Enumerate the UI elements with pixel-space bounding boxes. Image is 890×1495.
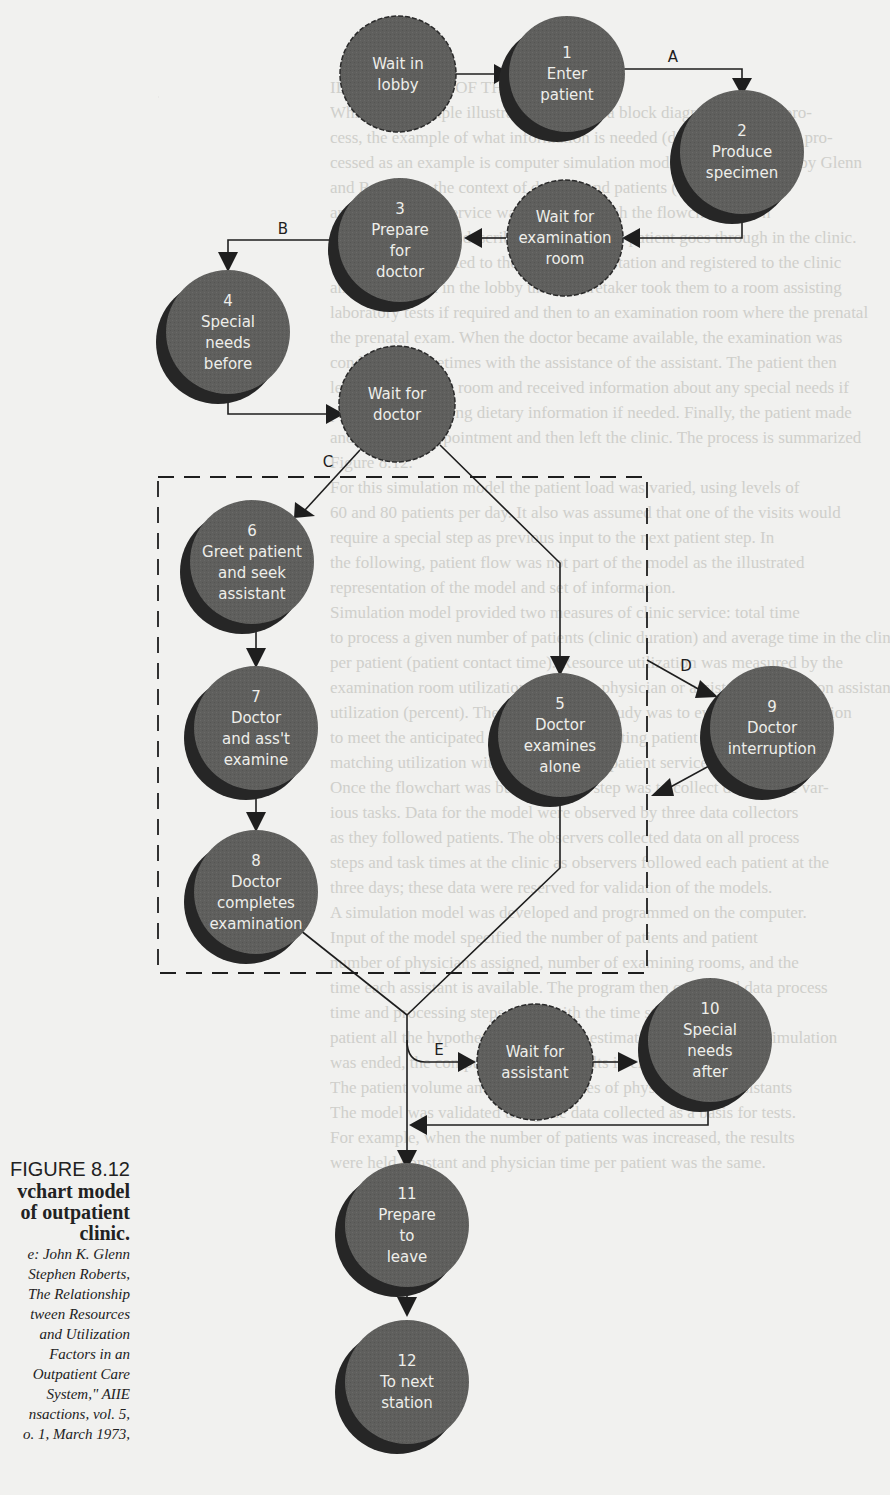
node-label: examines bbox=[524, 737, 597, 755]
node-circle bbox=[194, 830, 318, 954]
arrow-head bbox=[618, 1052, 638, 1072]
node-label: examine bbox=[224, 751, 289, 769]
node-circle bbox=[648, 978, 772, 1102]
node-label: leave bbox=[387, 1248, 428, 1266]
node-n1: 1Enterpatient bbox=[499, 16, 625, 142]
edge-d-to-9 bbox=[647, 660, 700, 690]
node-n12: 12To nextstation bbox=[335, 1320, 469, 1454]
arrow-head bbox=[622, 228, 640, 248]
arrow-head bbox=[695, 680, 718, 698]
edge-label-a: A bbox=[668, 48, 679, 66]
arrow-head bbox=[218, 252, 238, 272]
node-label: after bbox=[692, 1063, 728, 1081]
node-label: Doctor bbox=[231, 709, 282, 727]
edge-label-d: D bbox=[680, 657, 692, 675]
node-n4: 4Specialneedsbefore bbox=[156, 270, 290, 404]
edge-3-to-4 bbox=[228, 240, 333, 256]
node-circle bbox=[340, 16, 456, 132]
node-circle bbox=[166, 270, 290, 394]
node-circle bbox=[339, 346, 455, 462]
node-label: Wait in bbox=[372, 55, 424, 73]
nodes: Wait inlobby1Enterpatient2Producespecime… bbox=[156, 16, 834, 1454]
caption-title-2: of outpatient bbox=[0, 1202, 130, 1223]
node-label: Prepare bbox=[371, 221, 429, 239]
node-label: Wait for bbox=[506, 1043, 565, 1061]
arrow-head bbox=[651, 778, 674, 796]
caption-source-7: Outpatient Care bbox=[0, 1364, 130, 1384]
caption-source-1: e: John K. Glenn bbox=[0, 1244, 130, 1264]
node-number: 3 bbox=[395, 200, 405, 218]
node-label: Enter bbox=[547, 65, 588, 83]
node-label: specimen bbox=[706, 164, 778, 182]
node-wait-exam-room: Wait forexaminationroom bbox=[507, 180, 623, 296]
node-number: 7 bbox=[251, 688, 261, 706]
node-circle bbox=[194, 666, 318, 790]
arrow-head bbox=[397, 1297, 417, 1317]
edge-1-to-2 bbox=[622, 69, 742, 84]
node-label: Produce bbox=[712, 143, 772, 161]
caption-source-2: Stephen Roberts, bbox=[0, 1264, 130, 1284]
node-label: to bbox=[399, 1227, 414, 1245]
node-n5: 5Doctorexaminesalone bbox=[488, 673, 622, 807]
node-label: station bbox=[381, 1394, 433, 1412]
figure-caption: FIGURE 8.12 vchart model of outpatient c… bbox=[0, 1157, 130, 1444]
node-n9: 9Doctorinterruption bbox=[700, 666, 834, 800]
figure-number: FIGURE 8.12 bbox=[0, 1157, 130, 1181]
arrow-head bbox=[464, 228, 482, 248]
node-label: examination bbox=[518, 229, 611, 247]
node-n6: 6Greet patientand seekassistant bbox=[180, 500, 314, 634]
arrow-head bbox=[458, 1052, 476, 1072]
caption-source-10: o. 1, March 1973, bbox=[0, 1424, 130, 1444]
arrow-head bbox=[246, 648, 266, 668]
node-label: room bbox=[546, 250, 585, 268]
node-number: 4 bbox=[223, 292, 233, 310]
node-label: and ass't bbox=[222, 730, 290, 748]
arrow-head bbox=[409, 1115, 427, 1135]
node-wait-lobby: Wait inlobby bbox=[340, 16, 456, 132]
edge-label-b: B bbox=[278, 220, 288, 238]
caption-source-3: The Relationship bbox=[0, 1284, 130, 1304]
caption-source-9: nsactions, vol. 5, bbox=[0, 1404, 130, 1424]
node-circle bbox=[477, 1004, 593, 1120]
node-number: 9 bbox=[767, 698, 777, 716]
caption-source-6: Factors in an bbox=[0, 1344, 130, 1364]
node-label: for bbox=[390, 242, 411, 260]
node-number: 6 bbox=[247, 522, 257, 540]
node-label: Greet patient bbox=[202, 543, 302, 561]
node-number: 2 bbox=[737, 122, 747, 140]
node-circle bbox=[345, 1163, 469, 1287]
node-label: doctor bbox=[376, 263, 425, 281]
node-label: assistant bbox=[218, 585, 285, 603]
node-number: 11 bbox=[397, 1185, 416, 1203]
node-number: 12 bbox=[397, 1352, 416, 1370]
node-circle bbox=[338, 178, 462, 302]
caption-title-3: clinic. bbox=[0, 1223, 130, 1244]
node-n10: 10Specialneedsafter bbox=[638, 978, 772, 1112]
edge-label-c: C bbox=[323, 453, 333, 471]
node-n8: 8Doctorcompletesexamination bbox=[184, 830, 318, 964]
node-n3: 3Preparefordoctor bbox=[328, 178, 462, 312]
node-label: examination bbox=[209, 915, 302, 933]
node-number: 5 bbox=[555, 695, 565, 713]
node-label: Wait for bbox=[536, 208, 595, 226]
caption-source-8: System," AIIE bbox=[0, 1384, 130, 1404]
caption-source-5: and Utilization bbox=[0, 1324, 130, 1344]
node-label: Prepare bbox=[378, 1206, 436, 1224]
node-label: assistant bbox=[501, 1064, 568, 1082]
node-label: Special bbox=[683, 1021, 737, 1039]
node-label: Doctor bbox=[747, 719, 798, 737]
node-circle bbox=[498, 673, 622, 797]
arrow-head bbox=[294, 502, 315, 518]
caption-title-1: vchart model bbox=[0, 1181, 130, 1202]
node-label: and seek bbox=[218, 564, 286, 582]
edge-label-e: E bbox=[434, 1041, 443, 1059]
node-label: needs bbox=[205, 334, 250, 352]
node-n2: 2Producespecimen bbox=[670, 90, 804, 224]
node-circle bbox=[190, 500, 314, 624]
node-label: doctor bbox=[373, 406, 422, 424]
node-n11: 11Preparetoleave bbox=[335, 1163, 469, 1297]
node-label: Doctor bbox=[231, 873, 282, 891]
node-n7: 7Doctorand ass'texamine bbox=[184, 666, 318, 800]
node-wait-doctor: Wait fordoctor bbox=[339, 346, 455, 462]
node-label: alone bbox=[539, 758, 580, 776]
